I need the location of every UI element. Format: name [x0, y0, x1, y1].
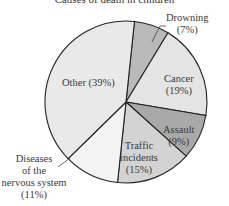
label-drowning: Drowning (7%) — [166, 12, 209, 36]
label-cancer: Cancer (19%) — [164, 73, 194, 97]
label-other: Other (39%) — [62, 77, 115, 89]
label-assault: Assault (9%) — [163, 124, 195, 148]
label-traffic: Traffic incidents (15%) — [120, 140, 158, 176]
label-diseases: Diseases of the nervous system (11%) — [0, 153, 68, 201]
